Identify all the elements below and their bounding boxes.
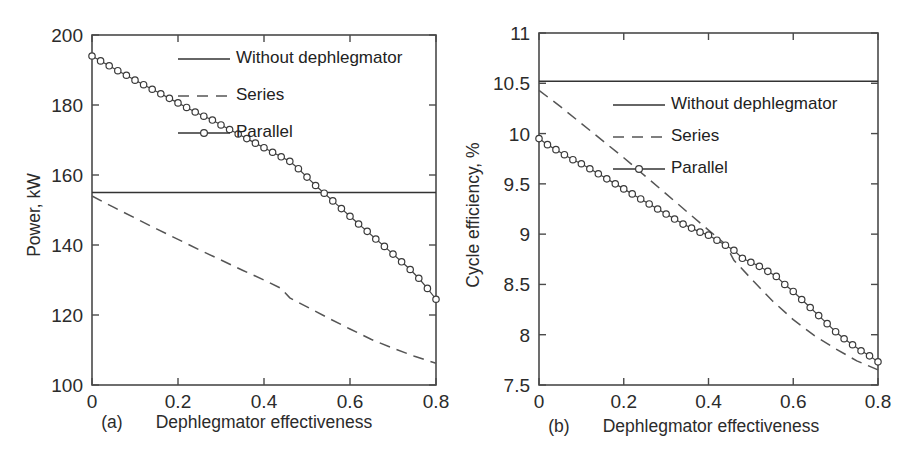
data-point [595, 171, 601, 177]
y-tick-label: 8.5 [504, 274, 530, 295]
data-point [201, 113, 207, 119]
x-tick-label: 0.8 [865, 391, 891, 412]
data-point [671, 216, 677, 222]
data-point [338, 205, 344, 211]
y-tick-label: 180 [51, 95, 83, 116]
data-point [355, 221, 361, 227]
plot-frame [539, 33, 878, 385]
data-point [347, 213, 353, 219]
data-point [570, 157, 576, 163]
y-tick-label: 200 [51, 25, 83, 46]
data-point [175, 100, 181, 106]
x-tick-label: 0.6 [337, 391, 363, 412]
y-axis-label: Power, kW [24, 173, 44, 257]
y-tick-label: 140 [51, 235, 83, 256]
legend-label: Parallel [671, 158, 728, 177]
chart-panel-a: 10012014016018020000.20.40.60.8Without d… [0, 0, 452, 460]
data-point [697, 229, 703, 235]
data-point [782, 281, 788, 287]
legend-label: Parallel [236, 122, 293, 141]
data-point [663, 211, 669, 217]
data-point [304, 174, 310, 180]
data-point [849, 342, 855, 348]
legend-label: Without dephlegmator [236, 48, 403, 67]
data-point [790, 288, 796, 294]
x-axis-label: Dephlegmator effectiveness [156, 412, 373, 432]
data-point [261, 145, 267, 151]
data-point [269, 149, 275, 155]
chart-svg-b: 7.588.599.51010.51100.20.40.60.8Without … [451, 0, 903, 460]
y-axis-label: Cycle efficiency, % [463, 142, 483, 287]
data-point [731, 247, 737, 253]
figure-container: 10012014016018020000.20.40.60.8Without d… [0, 0, 903, 460]
data-point [544, 141, 550, 147]
y-tick-label: 11 [510, 23, 530, 44]
legend-label: Without dephlegmator [671, 94, 838, 113]
y-tick-label: 9.5 [504, 174, 530, 195]
x-tick-label: 0.2 [165, 391, 191, 412]
data-point [407, 266, 413, 272]
data-point [832, 329, 838, 335]
x-axis-label: Dephlegmator effectiveness [603, 416, 820, 436]
data-point [841, 336, 847, 342]
y-tick-label: 8 [519, 325, 530, 346]
data-point [629, 191, 635, 197]
data-point [587, 166, 593, 172]
data-point [140, 82, 146, 88]
data-point [424, 285, 430, 291]
data-point [192, 109, 198, 115]
data-point [364, 228, 370, 234]
y-tick-label: 10.5 [493, 73, 530, 94]
data-point [166, 95, 172, 101]
data-point [612, 181, 618, 187]
data-point [553, 146, 559, 152]
data-point [416, 275, 422, 281]
data-point [132, 77, 138, 83]
x-tick-label: 0.6 [780, 391, 806, 412]
y-tick-label: 120 [51, 305, 83, 326]
chart-panel-b: 7.588.599.51010.51100.20.40.60.8Without … [451, 0, 903, 460]
data-point [330, 198, 336, 204]
chart-svg-a: 10012014016018020000.20.40.60.8Without d… [0, 0, 452, 460]
data-point [561, 151, 567, 157]
data-point [89, 53, 95, 59]
data-point [604, 176, 610, 182]
data-point [680, 221, 686, 227]
data-point [295, 166, 301, 172]
data-point [866, 353, 872, 359]
data-point [705, 232, 711, 238]
data-point [578, 161, 584, 167]
data-point [115, 68, 121, 74]
data-point [654, 206, 660, 212]
data-point [97, 58, 103, 64]
data-point [158, 91, 164, 97]
data-point [381, 243, 387, 249]
panel-tag-b: (b) [548, 416, 569, 436]
data-point [799, 296, 805, 302]
data-point [123, 72, 129, 78]
data-point [398, 259, 404, 265]
data-point [773, 273, 779, 279]
x-tick-label: 0.4 [251, 391, 278, 412]
y-tick-label: 100 [51, 375, 83, 396]
legend-marker-icon [201, 130, 208, 137]
x-tick-label: 0.4 [695, 391, 722, 412]
data-point [824, 320, 830, 326]
data-point [209, 117, 215, 123]
x-tick-label: 0.8 [423, 391, 449, 412]
data-point [875, 359, 881, 365]
y-tick-label: 9 [519, 224, 530, 245]
legend-label: Series [671, 126, 719, 145]
data-point [714, 237, 720, 243]
y-tick-label: 7.5 [504, 375, 530, 396]
data-point [858, 348, 864, 354]
x-tick-label: 0 [534, 391, 545, 412]
data-point [390, 251, 396, 257]
data-point [815, 312, 821, 318]
data-point [688, 225, 694, 231]
data-point [621, 186, 627, 192]
data-point [807, 304, 813, 310]
data-point [638, 196, 644, 202]
data-point [748, 259, 754, 265]
data-point [433, 296, 439, 302]
